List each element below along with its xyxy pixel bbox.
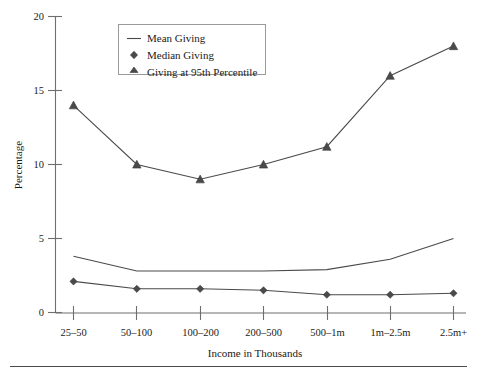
x-tick-label: 200–500: [245, 327, 282, 338]
x-axis-tick-labels: 25–50 50–100 100–200 200–500 500–1m 1m–2…: [60, 327, 467, 338]
chart-container: 20 15 10 5 0 Percentage 25–50 50–100 100…: [0, 0, 477, 369]
x-tick-label: 25–50: [60, 327, 86, 338]
diamond-data-point: [197, 285, 204, 292]
diamond-data-point: [450, 290, 457, 297]
y-tick-label: 10: [34, 159, 45, 170]
x-tick-label: 1m–2.5m: [371, 327, 411, 338]
triangle-data-point: [386, 72, 394, 80]
diamond-data-point: [260, 287, 267, 294]
diamond-data-point: [133, 285, 140, 292]
y-tick-label: 20: [34, 11, 45, 22]
diamond-data-point: [323, 291, 330, 298]
diamond-data-point: [387, 291, 394, 298]
triangle-data-point: [449, 42, 457, 50]
series-mean-giving: [74, 239, 454, 272]
triangle-data-point: [69, 101, 77, 109]
diamond-data-point: [70, 278, 77, 285]
x-axis-title: Income in Thousands: [208, 347, 303, 359]
legend-label-mean: Mean Giving: [147, 32, 206, 44]
chart-legend: Mean Giving Median Giving Giving at 95th…: [119, 25, 266, 79]
x-tick-label: 50–100: [121, 327, 153, 338]
y-tick-label: 0: [39, 307, 44, 318]
line-chart: 20 15 10 5 0 Percentage 25–50 50–100 100…: [0, 0, 477, 369]
y-tick-label: 5: [39, 233, 44, 244]
series-path: [74, 239, 454, 272]
y-axis-title: Percentage: [12, 141, 24, 189]
series-layer: [69, 42, 457, 298]
legend-label-p95: Giving at 95th Percentile: [147, 66, 257, 78]
x-tick-label: 2.5m+: [440, 327, 467, 338]
series-median-giving: [70, 278, 457, 299]
legend-label-median: Median Giving: [147, 49, 214, 61]
y-tick-label: 15: [34, 85, 45, 96]
x-tick-label: 500–1m: [310, 327, 344, 338]
x-tick-label: 100–200: [182, 327, 219, 338]
y-axis-tick-labels: 20 15 10 5 0: [34, 11, 45, 318]
